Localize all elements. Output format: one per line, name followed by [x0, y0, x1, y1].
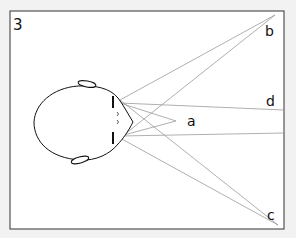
label-a: a: [187, 113, 196, 129]
figure-number: 3: [13, 16, 23, 34]
label-c: c: [267, 207, 275, 223]
eye-convergence-diagram: 3 b d a c: [0, 0, 296, 238]
label-b: b: [265, 23, 274, 39]
label-d: d: [266, 93, 275, 109]
